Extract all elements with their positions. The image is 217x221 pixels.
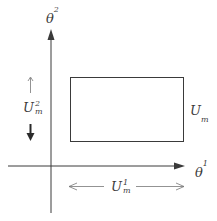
down-arrow-icon [27,133,35,141]
region-rectangle [71,78,184,142]
interval-y-label-base: U [23,100,34,115]
interval-x-label-sub: m [123,187,131,195]
y-axis-arrowhead-icon [48,29,55,40]
region-label: Um [190,102,209,118]
interval-y-label-sub: m [35,108,43,116]
x-axis-label: θ1 [195,164,208,180]
region-label-base: U [190,103,201,118]
interval-x-label: U1m [111,178,131,195]
x-axis-label-sup: 1 [203,159,208,168]
interval-x-label-base: U [111,179,122,194]
x-axis-arrowhead-icon [174,163,185,170]
interval-y-label: U2m [23,99,43,116]
y-axis-label-base: θ [46,11,54,26]
x-axis-label-base: θ [195,165,203,180]
y-axis-label-sup: 2 [54,5,59,14]
y-axis-label: θ2 [46,10,59,26]
region-label-sub: m [201,115,209,124]
